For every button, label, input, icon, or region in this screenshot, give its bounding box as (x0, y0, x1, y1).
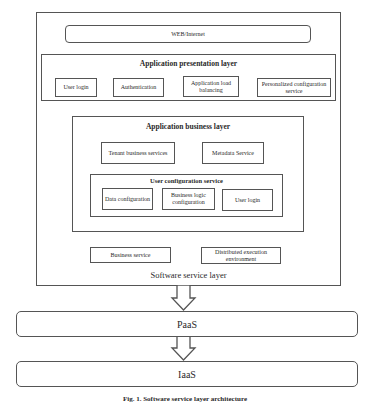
label: Distributed execution environment (202, 249, 280, 263)
label: Data configuration (105, 196, 150, 203)
label: Personalized configuration service (260, 81, 328, 95)
label: User login (235, 197, 260, 204)
business-logic-configuration: Business logic configuration (162, 188, 215, 210)
business-layer-title: Application business layer (73, 122, 303, 131)
web-internet-label: WEB/Internet (171, 31, 205, 38)
presentation-load-balancing: Application load balancing (183, 76, 239, 97)
label: Business logic configuration (163, 192, 214, 206)
distributed-execution-environment: Distributed execution environment (201, 247, 281, 264)
tenant-business-services: Tenant business services (101, 142, 175, 164)
down-arrow-icon (170, 335, 197, 362)
web-internet-box: WEB/Internet (65, 25, 311, 43)
data-configuration: Data configuration (102, 188, 153, 210)
presentation-personalized-config: Personalized configuration service (257, 78, 331, 97)
label: Business service (111, 252, 151, 259)
presentation-layer-title: Application presentation layer (42, 59, 335, 68)
business-service: Business service (90, 247, 171, 263)
label: Authentication (121, 84, 157, 91)
label: User login (63, 84, 88, 91)
iaas-label: IaaS (178, 369, 196, 380)
label: Application load balancing (188, 80, 234, 94)
metadata-service: Metadata Service (202, 142, 264, 164)
down-arrow-icon (170, 285, 197, 312)
label: Metadata Service (212, 150, 254, 157)
presentation-authentication: Authentication (113, 78, 164, 97)
label: Tenant business services (109, 150, 168, 157)
software-service-layer-label: Software service layer (36, 270, 341, 280)
paas-layer: PaaS (16, 311, 358, 337)
presentation-user-login: User login (55, 78, 97, 97)
user-config-user-login: User login (222, 189, 273, 211)
figure-caption: Fig. 1. Software service layer architect… (0, 395, 370, 403)
user-config-title: User configuration service (91, 177, 282, 184)
iaas-layer: IaaS (16, 361, 358, 387)
paas-label: PaaS (177, 319, 197, 330)
